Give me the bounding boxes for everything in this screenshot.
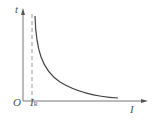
ir-label-sub: R xyxy=(34,101,38,107)
y-axis-arrow-icon xyxy=(21,8,25,15)
y-axis-label: t xyxy=(15,3,18,15)
x-axis-arrow-icon xyxy=(141,99,148,103)
curve xyxy=(35,16,118,98)
origin-label: O xyxy=(13,96,21,108)
x-axis-label: I xyxy=(130,103,134,115)
ir-label: IR xyxy=(30,96,38,108)
